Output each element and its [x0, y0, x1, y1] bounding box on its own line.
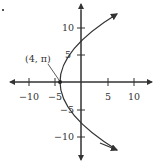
x-tick-label: 10: [128, 91, 140, 102]
y-tick-label: 10: [62, 22, 74, 33]
vertex-leader-line: [48, 64, 59, 80]
y-tick-label: −10: [54, 131, 74, 142]
parabola-diagram: −10 −5 5 10 10 5 −5 −10 (4, π): [0, 0, 156, 163]
x-tick-label: −10: [19, 91, 39, 102]
vertex-point: [58, 80, 62, 84]
x-tick-label: −5: [48, 91, 62, 102]
x-tick-label: 5: [105, 91, 111, 102]
vertex-label: (4, π): [25, 53, 51, 64]
